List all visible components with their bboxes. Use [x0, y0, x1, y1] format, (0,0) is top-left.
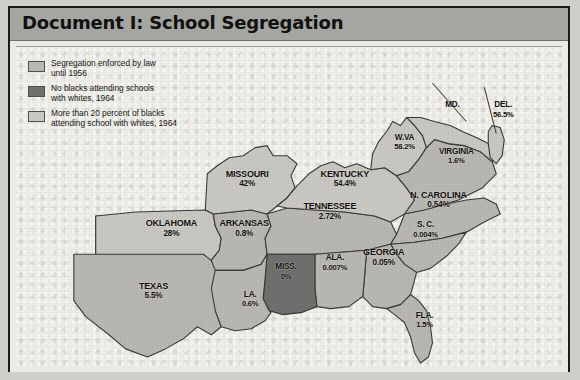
legend-item-law-label: Segregation enforced by law until 1956 [51, 59, 156, 78]
state-label-fla: FLA.1.5% [416, 310, 433, 329]
state-label-s-c: S. C.0.004% [413, 220, 438, 239]
legend-item-law: Segregation enforced by law until 1956 [28, 59, 243, 78]
state-name: MISS. [275, 262, 296, 271]
state-name: DEL. [494, 100, 512, 109]
legend-item-none: No blacks attending schools with whites,… [28, 84, 243, 103]
document-body: Segregation enforced by law until 1956 N… [10, 41, 568, 372]
state-percent: 1.5% [416, 320, 433, 330]
state-percent: 42% [226, 179, 269, 189]
state-name: LA. [244, 289, 257, 298]
state-percent: 0.8% [219, 228, 268, 238]
state-name: S. C. [417, 220, 434, 229]
state-label-virginia: VIRGINIA1.6% [439, 146, 474, 165]
state-percent: 0% [275, 271, 296, 281]
state-percent: 0.004% [413, 229, 438, 239]
state-percent: 0.05% [363, 257, 404, 267]
state-name: VIRGINIA [439, 146, 474, 155]
state-label-missouri: MISSOURI42% [226, 169, 269, 188]
map-panel: Segregation enforced by law until 1956 N… [16, 46, 562, 367]
state-percent: 1.6% [439, 156, 474, 166]
state-label-miss: MISS.0% [275, 262, 296, 281]
state-name: TENNESSEE [303, 201, 356, 211]
state-name: MISSOURI [226, 168, 269, 178]
state-name: W.VA [395, 132, 415, 141]
state-label-md: MD. [445, 101, 459, 111]
state-label-oklahoma: OKLAHOMA28% [146, 219, 197, 238]
state-percent: 56.5% [493, 109, 514, 119]
state-percent: 0.007% [323, 262, 348, 272]
state-name: N. CAROLINA [410, 189, 467, 199]
state-label-arkansas: ARKANSAS0.8% [219, 219, 268, 238]
state-label-texas: TEXAS5.5% [139, 281, 168, 300]
legend-item-more: More than 20 percent of blacks attending… [28, 109, 243, 128]
legend-item-none-label: No blacks attending schools with whites,… [51, 84, 154, 103]
state-percent: 0.54% [410, 200, 467, 210]
title-band: Document I: School Segregation [10, 8, 568, 41]
state-percent: 58.2% [394, 142, 415, 152]
none-swatch [28, 86, 45, 97]
state-name: ALA. [326, 253, 344, 262]
state-label-w-va: W.VA58.2% [394, 132, 415, 151]
more-swatch [28, 111, 45, 122]
state-label-ala: ALA.0.007% [323, 253, 348, 272]
state-label-n-carolina: N. CAROLINA0.54% [410, 190, 467, 209]
state-label-la: LA.0.6% [242, 289, 259, 308]
state-name: KENTUCKY [321, 168, 369, 178]
legend-item-more-label: More than 20 percent of blacks attending… [51, 109, 177, 128]
state-percent: 5.5% [139, 291, 168, 301]
state-percent: 54.4% [321, 179, 369, 189]
state-name: TEXAS [139, 280, 168, 290]
map-legend: Segregation enforced by law until 1956 N… [28, 59, 243, 135]
state-label-kentucky: KENTUCKY54.4% [321, 169, 369, 188]
state-percent: 0.6% [242, 299, 259, 309]
state-delaware [488, 125, 504, 163]
state-name: GEORGIA [363, 247, 404, 257]
state-percent: 2.72% [303, 211, 356, 221]
document-frame: Document I: School Segregation [8, 6, 570, 372]
state-percent: 28% [146, 228, 197, 238]
state-name: MD. [445, 101, 459, 110]
law-swatch [28, 61, 45, 72]
state-name: FLA. [416, 310, 433, 319]
state-label-georgia: GEORGIA0.05% [363, 248, 404, 267]
page-title: Document I: School Segregation [22, 12, 343, 33]
state-name: ARKANSAS [219, 218, 268, 228]
state-label-tennessee: TENNESSEE2.72% [303, 202, 356, 221]
state-name: OKLAHOMA [146, 218, 197, 228]
state-label-del: DEL.56.5% [493, 100, 514, 119]
